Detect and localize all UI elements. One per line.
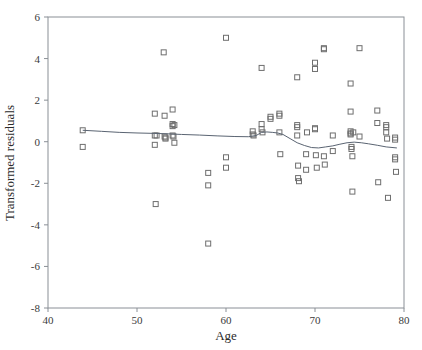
y-axis-label: Transformed residuals bbox=[2, 105, 17, 221]
data-point-marker bbox=[153, 202, 158, 207]
scatter-plot-figure: 4050607080 -8-6-4-20246 Age Transformed … bbox=[0, 0, 422, 350]
y-tick-label: 2 bbox=[35, 94, 41, 106]
data-point-marker bbox=[313, 60, 318, 65]
data-point-marker bbox=[152, 142, 157, 147]
data-point-marker bbox=[348, 81, 353, 86]
x-axis-ticks: 4050607080 bbox=[43, 308, 411, 326]
data-point-marker bbox=[376, 180, 381, 185]
data-point-marker bbox=[321, 154, 326, 159]
loess-smoother-line bbox=[83, 130, 397, 148]
data-point-marker bbox=[357, 134, 362, 139]
data-point-marker bbox=[393, 169, 398, 174]
data-point-marker bbox=[172, 140, 177, 145]
data-point-marker bbox=[330, 149, 335, 154]
data-point-marker bbox=[224, 155, 229, 160]
data-point-marker bbox=[313, 66, 318, 71]
y-tick-label: 4 bbox=[35, 53, 41, 65]
data-point-marker bbox=[304, 130, 309, 135]
y-tick-label: -2 bbox=[31, 177, 40, 189]
data-point-marker bbox=[80, 144, 85, 149]
y-axis-ticks: -8-6-4-20246 bbox=[31, 11, 48, 314]
data-point-marker bbox=[350, 154, 355, 159]
x-tick-label: 60 bbox=[221, 314, 233, 326]
data-point-marker bbox=[350, 189, 355, 194]
plot-frame bbox=[48, 17, 404, 308]
y-tick-label: 6 bbox=[35, 11, 41, 23]
data-point-marker bbox=[161, 50, 166, 55]
data-point-marker bbox=[357, 46, 362, 51]
plot-canvas: 4050607080 -8-6-4-20246 Age Transformed … bbox=[0, 0, 422, 350]
data-point-marker bbox=[375, 108, 380, 113]
data-point-marker bbox=[304, 167, 309, 172]
data-point-marker bbox=[278, 152, 283, 157]
x-tick-label: 70 bbox=[310, 314, 322, 326]
data-point-marker bbox=[206, 241, 211, 246]
data-point-marker bbox=[295, 133, 300, 138]
x-tick-label: 80 bbox=[399, 314, 411, 326]
data-point-marker bbox=[170, 107, 175, 112]
data-point-marker bbox=[224, 165, 229, 170]
data-point-marker bbox=[295, 75, 300, 80]
data-point-marker bbox=[224, 35, 229, 40]
x-tick-label: 40 bbox=[43, 314, 55, 326]
data-point-marker bbox=[348, 109, 353, 114]
data-point-marker bbox=[206, 170, 211, 175]
data-point-marker bbox=[304, 152, 309, 157]
data-point-marker bbox=[384, 130, 389, 135]
data-point-marker bbox=[375, 121, 380, 126]
data-point-marker bbox=[322, 162, 327, 167]
data-point-marker bbox=[385, 195, 390, 200]
y-tick-label: -4 bbox=[31, 219, 41, 231]
x-tick-label: 50 bbox=[132, 314, 144, 326]
data-point-marker bbox=[314, 165, 319, 170]
data-point-marker bbox=[162, 113, 167, 118]
data-point-marker bbox=[259, 122, 264, 127]
data-point-marker bbox=[152, 111, 157, 116]
data-point-marker bbox=[385, 136, 390, 141]
data-point-marker bbox=[330, 133, 335, 138]
x-axis-label: Age bbox=[215, 328, 237, 343]
data-point-marker bbox=[313, 153, 318, 158]
y-tick-label: 0 bbox=[35, 136, 41, 148]
data-point-marker bbox=[206, 183, 211, 188]
smoother-line bbox=[83, 130, 397, 148]
data-point-marker bbox=[259, 65, 264, 70]
data-point-marker bbox=[296, 163, 301, 168]
y-tick-label: -6 bbox=[31, 260, 41, 272]
y-tick-label: -8 bbox=[31, 302, 41, 314]
data-points bbox=[80, 35, 398, 246]
